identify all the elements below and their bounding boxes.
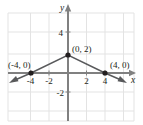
point-label-neg4-0: (-4, 0) [8, 60, 31, 70]
point-neg4-0 [28, 70, 33, 75]
point-0-2 [65, 52, 70, 57]
x-tick-label-pos4: 4 [103, 76, 108, 86]
curve-arrow-left [9, 76, 19, 83]
y-tick-label-pos4: 4 [59, 28, 64, 38]
x-tick-label-pos2: 2 [84, 76, 89, 86]
x-axis-label: x [130, 75, 136, 85]
point-label-4-0: (4, 0) [110, 60, 130, 70]
coordinate-graph-figure: -4 -2 2 4 4 -2 y x (-4, 0) (0, 2) (4, 0) [0, 0, 143, 125]
y-axis-arrow [65, 4, 71, 12]
graph-svg: -4 -2 2 4 4 -2 y x (-4, 0) (0, 2) (4, 0) [0, 0, 143, 125]
y-axis-label: y [59, 3, 65, 13]
y-tick-label-neg2: -2 [57, 88, 65, 98]
y-tick-labels: 4 -2 [57, 28, 65, 98]
curve-arrow-right [118, 76, 128, 83]
point-4-0 [102, 70, 107, 75]
point-label-0-2: (0, 2) [72, 44, 92, 54]
x-tick-label-neg4: -4 [27, 76, 35, 86]
x-tick-label-neg2: -2 [45, 76, 53, 86]
